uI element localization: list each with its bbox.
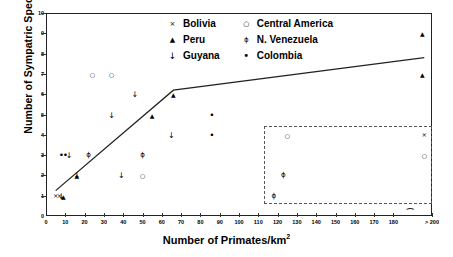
data-point-peru: ▲ [420,30,425,37]
x-tick-label: 140 [312,219,321,225]
x-tick-label: 100 [234,219,243,225]
x-tick-mark [85,213,86,217]
y-tick-mark [41,155,46,156]
legend-label: Peru [183,34,205,45]
x-tick-mark [278,213,279,217]
x-tick-mark [336,213,337,217]
legend-label: Central America [257,18,333,29]
data-point-colombia: • [209,132,214,138]
y-tick-label: 0 [30,213,44,219]
data-point-central-america: ○ [422,152,427,159]
y-tick-mark [41,196,46,197]
x-tick-mark [200,213,201,217]
data-point-n-venezuela: ϕ [86,152,91,159]
legend-marker-p-icon: ▲ [168,36,177,44]
x-axis-title-exponent: 2 [286,233,290,240]
legend-item-peru[interactable]: ▲Peru [168,33,220,46]
x-tick-mark [181,213,182,217]
x-tick-mark [258,213,259,217]
x-tick-mark [316,213,317,217]
x-tick-mark [143,213,144,217]
data-point-colombia: • [209,112,214,118]
data-point-central-america: ○ [109,70,114,77]
legend-item-guyana[interactable]: ↓Guyana [168,49,220,62]
data-point-central-america: ○ [140,172,145,179]
x-tick-label: 130 [292,219,301,225]
data-point-central-america: ○ [90,70,95,77]
legend-marker-v-icon: ϕ [242,36,251,44]
data-point-peru: ▲ [150,111,155,118]
x-tick-label: 110 [254,219,263,225]
x-tick-label: 160 [350,219,359,225]
x-tick-label: 150 [331,219,340,225]
legend-column-1: ×Bolivia▲Peru↓Guyana [168,17,220,62]
legend-marker-c-icon: • [242,52,251,59]
data-point-central-america: ○ [285,131,290,138]
x-tick-label: > 200 [425,219,439,225]
legend-marker-b-icon: × [168,20,177,28]
data-point-guyana: ↓ [74,172,81,179]
data-point-guyana: ↓ [168,131,175,138]
x-axis-title-text: Number of Primates/km [163,234,286,246]
x-tick-mark [65,213,66,217]
x-tick-label: 20 [82,219,88,225]
legend-marker-g-icon: ↓ [168,51,177,61]
x-tick-label: 90 [217,219,223,225]
chart-figure: Number of Sympatric Species ×Bolivia▲Per… [0,0,453,257]
x-tick-label: 0 [44,219,47,225]
data-point-guyana: ↓ [108,111,115,118]
x-tick-label: 70 [178,219,184,225]
legend: ×Bolivia▲Peru↓Guyana○Central AmericaϕN. … [168,17,333,62]
legend-column-2: ○Central AmericaϕN. Venezuela•Colombia [242,17,333,62]
x-tick-label: 80 [197,219,203,225]
x-tick-label: 30 [101,219,107,225]
data-point-n-venezuela: ϕ [271,192,276,199]
legend-label: Guyana [183,50,220,61]
legend-item-bolivia[interactable]: ×Bolivia [168,17,220,30]
y-tick-mark [41,33,46,34]
x-tick-label: 40 [120,219,126,225]
x-tick-label: 50 [139,219,145,225]
data-point-peru: ▲ [420,70,425,77]
x-tick-mark [432,213,433,217]
x-tick-mark [123,213,124,217]
axis-break-icon: ⁀ [407,209,413,218]
legend-item-n-venezuela[interactable]: ϕN. Venezuela [242,33,333,46]
x-tick-mark [393,213,394,217]
legend-item-central-america[interactable]: ○Central America [242,17,333,30]
y-tick-mark [41,175,46,176]
x-tick-mark [355,213,356,217]
data-point-bolivia: × [422,131,427,138]
x-tick-label: 180 [389,219,398,225]
data-point-guyana: ↓ [58,192,65,199]
data-point-guyana: ↓ [131,91,138,98]
data-point-n-venezuela: ϕ [281,172,286,179]
x-tick-label: 170 [370,219,379,225]
data-point-peru: ▲ [171,91,176,98]
legend-marker-o-icon: ○ [242,20,251,28]
legend-item-colombia[interactable]: •Colombia [242,49,333,62]
x-tick-mark [162,213,163,217]
y-tick-mark [41,135,46,136]
x-tick-mark [297,213,298,217]
y-tick-mark [41,54,46,55]
x-tick-label: 120 [273,219,282,225]
legend-label: Bolivia [183,18,216,29]
data-point-guyana: ↓ [118,172,125,179]
x-tick-label: 10 [62,219,68,225]
x-tick-mark [104,213,105,217]
y-tick-mark [41,94,46,95]
x-tick-mark [239,213,240,217]
x-tick-label: 60 [159,219,165,225]
x-tick-mark [220,213,221,217]
legend-label: N. Venezuela [257,34,318,45]
y-tick-mark [41,115,46,116]
y-tick-mark [41,74,46,75]
x-axis-title: Number of Primates/km2 [0,233,453,246]
y-tick-mark [41,13,46,14]
legend-label: Colombia [257,50,303,61]
data-point-n-venezuela: ϕ [140,152,145,159]
data-point-colombia: • [63,152,68,158]
x-tick-mark [374,213,375,217]
